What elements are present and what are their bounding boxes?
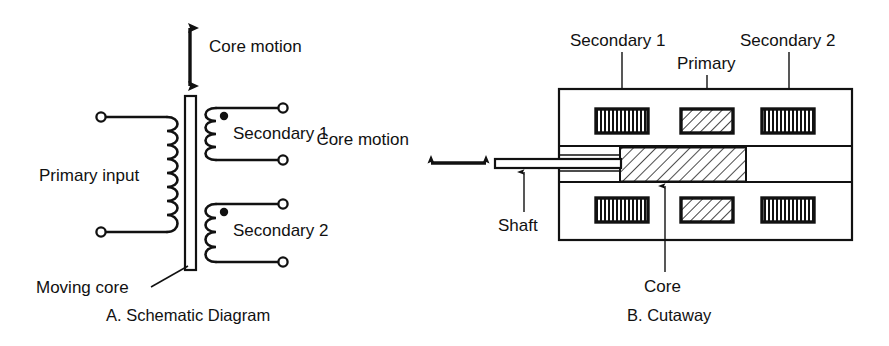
- winding-bottom-secondary-1: [596, 198, 648, 222]
- secondary-2-label-a: Secondary 2: [233, 221, 328, 240]
- winding-bottom-secondary-2: [762, 198, 814, 222]
- secondary-1-terminal-bottom: [278, 155, 287, 164]
- shaft-label: Shaft: [498, 216, 538, 235]
- secondary-2-terminal-top: [278, 199, 287, 208]
- secondary-1-label-a: Secondary 1: [233, 124, 328, 143]
- panel-a-caption: A. Schematic Diagram: [106, 306, 270, 324]
- secondary-1-polarity-dot: [220, 112, 228, 120]
- panel-b-caption: B. Cutaway: [627, 306, 712, 324]
- shaft-bar: [495, 159, 621, 168]
- core-motion-label-a: Core motion: [209, 37, 302, 56]
- core-label: Core: [644, 277, 681, 296]
- core-motion-label-b: Core motion: [316, 130, 409, 149]
- windings-bottom-row: [596, 198, 814, 222]
- core-block: [620, 148, 746, 182]
- winding-top-secondary-2: [762, 109, 814, 133]
- primary-input-label: Primary input: [39, 166, 139, 185]
- primary-terminal-bottom: [96, 227, 105, 236]
- secondary-2-polarity-dot: [220, 208, 228, 216]
- lvdt-figure: Core motion Primary input Secondary 1: [0, 0, 889, 346]
- secondary-1-terminal-top: [278, 103, 287, 112]
- secondary-1-label-b: Secondary 1: [570, 31, 665, 50]
- secondary-2-terminal-bottom: [278, 257, 287, 266]
- moving-core-bar: [185, 96, 196, 270]
- winding-top-secondary-1: [596, 109, 648, 133]
- windings-top-row: [596, 109, 814, 133]
- moving-core-label: Moving core: [36, 278, 129, 297]
- winding-bottom-primary: [681, 198, 733, 222]
- figure-root: Core motion Primary input Secondary 1: [0, 0, 889, 346]
- primary-label-b: Primary: [677, 54, 736, 73]
- winding-top-primary: [681, 109, 733, 133]
- secondary-2-label-b: Secondary 2: [740, 31, 835, 50]
- primary-terminal-top: [96, 112, 105, 121]
